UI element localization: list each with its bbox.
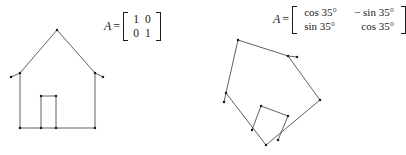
original-house-diagram — [10, 29, 104, 129]
rotation-cell-r1c1: cos 35° — [349, 20, 399, 34]
original-house-right-eave — [95, 73, 103, 77]
identity-cell-r0c1: 0 — [142, 12, 154, 26]
rotation-matrix-grid: cos 35° − sin 35° sin 35° cos 35° — [299, 6, 399, 34]
rotated-house-right-eave — [288, 56, 297, 57]
identity-matrix-variable: A — [104, 19, 113, 34]
rotated-house-vertices — [223, 39, 321, 146]
rotation-cell-r0c0: cos 35° — [299, 6, 349, 20]
original-house-left-eave — [11, 73, 20, 77]
identity-matrix-grid: 1 0 0 1 — [130, 12, 154, 41]
original-house-outline — [20, 30, 95, 128]
rotated-house-diagram — [223, 39, 321, 146]
original-house-vertices — [10, 29, 104, 129]
rotation-matrix-expression: A = cos 35° − sin 35° sin 35° cos 35° — [273, 5, 406, 35]
rotated-house-outline — [226, 40, 320, 145]
identity-cell-r1c1: 1 — [142, 26, 154, 40]
rotation-matrix-brackets: cos 35° − sin 35° sin 35° cos 35° — [292, 5, 406, 35]
identity-cell-r0c0: 1 — [130, 12, 142, 26]
identity-matrix-brackets: 1 0 0 1 — [123, 11, 161, 42]
rotation-cell-r1c0: sin 35° — [299, 20, 349, 34]
identity-matrix-expression: A = 1 0 0 1 — [104, 11, 161, 42]
identity-cell-r1c0: 0 — [130, 26, 142, 40]
rotated-house-door — [252, 106, 288, 140]
rotation-matrix-equals: = — [282, 12, 292, 27]
rotated-house-left-eave — [224, 93, 226, 102]
identity-matrix-equals: = — [113, 19, 123, 34]
rotation-matrix-variable: A — [273, 12, 282, 27]
rotation-cell-r0c1: − sin 35° — [349, 6, 399, 20]
original-house-door — [41, 96, 56, 128]
